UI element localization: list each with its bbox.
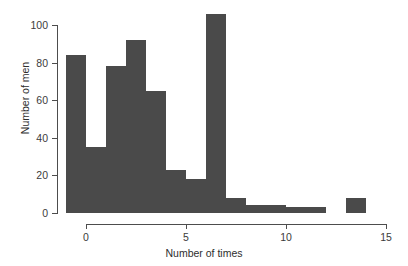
- histogram-bar: [186, 179, 206, 213]
- y-axis-tick-label: 100: [8, 20, 48, 30]
- y-axis-tick: [52, 213, 57, 214]
- histogram-bar: [346, 198, 366, 213]
- y-axis-tick-label: 20: [8, 170, 48, 180]
- histogram-bar: [206, 14, 226, 213]
- x-axis-tick-label: 10: [266, 232, 306, 243]
- x-axis-tick: [86, 224, 87, 229]
- x-axis-line: [86, 224, 386, 225]
- x-axis-tick: [386, 224, 387, 229]
- histogram-bar: [166, 170, 186, 213]
- y-axis-tick: [52, 138, 57, 139]
- y-axis-tick: [52, 100, 57, 101]
- x-axis-tick-label: 0: [66, 232, 106, 243]
- histogram-bar: [226, 198, 246, 213]
- histogram-bar: [246, 205, 266, 213]
- histogram-bar: [126, 40, 146, 213]
- x-axis-tick: [286, 224, 287, 229]
- histogram-figure: 020406080100 Number of men 051015 Number…: [0, 0, 408, 266]
- histogram-bar: [266, 205, 286, 213]
- x-axis-title: Number of times: [0, 247, 408, 259]
- y-axis-line: [57, 25, 58, 214]
- histogram-bar: [66, 55, 86, 213]
- histogram-bar: [146, 91, 166, 213]
- y-axis-tick: [52, 25, 57, 26]
- y-axis-tick-label: 0: [8, 208, 48, 218]
- x-axis-tick: [186, 224, 187, 229]
- y-axis-title: Number of men: [19, 43, 31, 153]
- x-axis-tick-label: 5: [166, 232, 206, 243]
- histogram-bar: [286, 207, 306, 213]
- x-axis-tick-label: 15: [366, 232, 406, 243]
- histogram-bar: [306, 207, 326, 213]
- y-axis-tick: [52, 63, 57, 64]
- histogram-bar: [106, 66, 126, 213]
- y-axis-tick: [52, 175, 57, 176]
- histogram-bar: [86, 147, 106, 213]
- plot-area: 020406080100 Number of men 051015 Number…: [0, 0, 408, 266]
